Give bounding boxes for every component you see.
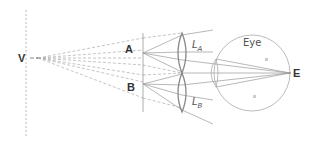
dashed-rays bbox=[38, 33, 182, 108]
label-eye: Eye bbox=[243, 37, 261, 48]
lens-b bbox=[178, 73, 186, 112]
v-point bbox=[36, 57, 38, 59]
rays-from-b bbox=[143, 73, 290, 124]
label-e: E bbox=[293, 67, 300, 79]
label-v: V bbox=[18, 52, 26, 64]
label-lens-a: LA bbox=[192, 39, 203, 53]
rays-from-a bbox=[143, 30, 290, 73]
rays-to-e bbox=[182, 59, 290, 87]
eye-mark-lower bbox=[253, 95, 256, 98]
label-b: B bbox=[127, 81, 135, 93]
lens-a bbox=[178, 33, 186, 73]
optics-diagram: V A B E Eye LA LB bbox=[0, 0, 313, 143]
label-a: A bbox=[125, 43, 133, 55]
eye-mark-upper bbox=[265, 58, 268, 61]
e-point bbox=[289, 72, 291, 74]
